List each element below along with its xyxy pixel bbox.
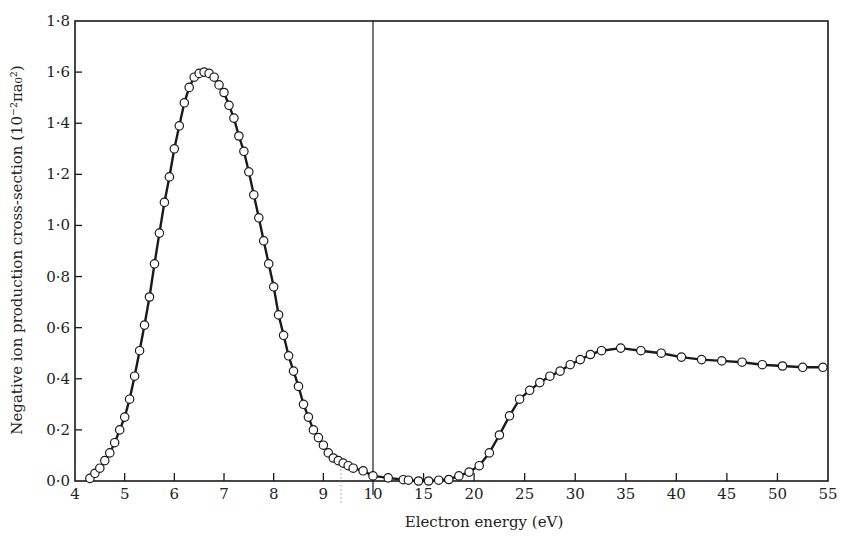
x-tick-label: 5 bbox=[120, 485, 130, 503]
data-point-marker bbox=[220, 88, 228, 96]
y-tick-label: 0·8 bbox=[46, 268, 70, 286]
data-point-marker bbox=[445, 475, 453, 483]
x-tick-label: 35 bbox=[616, 485, 635, 503]
data-point-marker bbox=[230, 114, 238, 122]
data-point-marker bbox=[101, 456, 109, 464]
y-tick-label: 0·4 bbox=[46, 370, 70, 388]
data-point-marker bbox=[150, 260, 158, 268]
x-tick-label: 4 bbox=[70, 485, 80, 503]
data-point-marker bbox=[319, 441, 327, 449]
data-point-marker bbox=[215, 81, 223, 89]
y-tick-label: 0·0 bbox=[46, 472, 70, 490]
data-point-marker bbox=[566, 361, 574, 369]
y-tick-label: 1·2 bbox=[46, 165, 70, 183]
data-point-marker bbox=[576, 355, 584, 363]
y-axis-ticks: 0·00·20·40·60·81·01·21·41·61·8 bbox=[46, 12, 82, 490]
data-point-marker bbox=[121, 413, 129, 421]
y-tick-label: 1·6 bbox=[46, 63, 70, 81]
data-point-marker bbox=[314, 433, 322, 441]
data-point-marker bbox=[526, 386, 534, 394]
data-point-marker bbox=[304, 413, 312, 421]
data-point-marker bbox=[359, 467, 367, 475]
data-point-marker bbox=[505, 412, 513, 420]
data-point-marker bbox=[819, 363, 827, 371]
data-point-marker bbox=[657, 349, 665, 357]
data-point-marker bbox=[495, 431, 503, 439]
data-point-marker bbox=[294, 382, 302, 390]
data-point-marker bbox=[235, 132, 243, 140]
data-point-marker bbox=[738, 358, 746, 366]
data-point-marker bbox=[369, 472, 377, 480]
data-point-marker bbox=[145, 293, 153, 301]
data-point-marker bbox=[96, 464, 104, 472]
x-tick-label: 10 bbox=[363, 485, 382, 503]
x-tick-label: 6 bbox=[170, 485, 180, 503]
y-axis-title: Negative ion production cross-section (1… bbox=[8, 65, 26, 434]
x-tick-label: 30 bbox=[566, 485, 585, 503]
data-point-marker bbox=[349, 464, 357, 472]
data-point-marker bbox=[465, 468, 473, 476]
data-point-marker bbox=[515, 395, 523, 403]
data-point-marker bbox=[435, 476, 443, 484]
data-point-marker bbox=[758, 361, 766, 369]
chart: 0·00·20·40·60·81·01·21·41·61·8 456789101… bbox=[0, 0, 848, 547]
x-tick-label: 7 bbox=[219, 485, 229, 503]
data-point-marker bbox=[404, 476, 412, 484]
data-point-marker bbox=[170, 145, 178, 153]
x-tick-label: 40 bbox=[667, 485, 686, 503]
data-point-marker bbox=[260, 237, 268, 245]
x-tick-label: 45 bbox=[717, 485, 736, 503]
data-point-marker bbox=[255, 214, 263, 222]
y-tick-label: 1·4 bbox=[46, 114, 70, 132]
data-point-marker bbox=[155, 229, 163, 237]
x-tick-label: 55 bbox=[818, 485, 837, 503]
data-point-marker bbox=[536, 378, 544, 386]
data-point-marker bbox=[384, 474, 392, 482]
x-axis-title: Electron energy (eV) bbox=[405, 513, 564, 531]
x-tick-label: 20 bbox=[465, 485, 484, 503]
data-point-marker bbox=[135, 347, 143, 355]
data-point-marker bbox=[274, 311, 282, 319]
data-series bbox=[86, 68, 827, 485]
data-point-marker bbox=[309, 426, 317, 434]
data-point-marker bbox=[284, 352, 292, 360]
data-point-marker bbox=[485, 449, 493, 457]
data-point-marker bbox=[240, 147, 248, 155]
data-point-marker bbox=[270, 283, 278, 291]
x-tick-label: 8 bbox=[269, 485, 279, 503]
data-point-marker bbox=[180, 99, 188, 107]
data-point-marker bbox=[210, 73, 218, 81]
data-point-marker bbox=[175, 122, 183, 130]
data-point-marker bbox=[165, 173, 173, 181]
data-point-marker bbox=[160, 198, 168, 206]
data-point-marker bbox=[546, 372, 554, 380]
data-point-marker bbox=[140, 321, 148, 329]
data-point-marker bbox=[250, 191, 258, 199]
y-tick-label: 0·2 bbox=[46, 421, 70, 439]
data-point-marker bbox=[265, 260, 273, 268]
data-point-marker bbox=[225, 101, 233, 109]
data-point-marker bbox=[586, 350, 594, 358]
data-point-marker bbox=[116, 426, 124, 434]
y-tick-label: 1·0 bbox=[46, 216, 70, 234]
data-point-marker bbox=[637, 347, 645, 355]
data-point-marker bbox=[111, 439, 119, 447]
data-point-marker bbox=[677, 353, 685, 361]
data-point-marker bbox=[245, 168, 253, 176]
x-tick-label: 50 bbox=[768, 485, 787, 503]
data-point-marker bbox=[424, 477, 432, 485]
series-line bbox=[90, 72, 823, 481]
data-point-marker bbox=[799, 363, 807, 371]
data-point-marker bbox=[718, 357, 726, 365]
y-tick-label: 1·8 bbox=[46, 12, 70, 30]
x-tick-label: 15 bbox=[414, 485, 433, 503]
data-point-marker bbox=[697, 355, 705, 363]
data-point-marker bbox=[125, 395, 133, 403]
data-point-marker bbox=[130, 372, 138, 380]
data-point-marker bbox=[597, 347, 605, 355]
data-point-marker bbox=[299, 400, 307, 408]
data-point-marker bbox=[556, 367, 564, 375]
data-point-marker bbox=[455, 472, 463, 480]
data-point-marker bbox=[617, 344, 625, 352]
x-tick-label: 9 bbox=[319, 485, 329, 503]
